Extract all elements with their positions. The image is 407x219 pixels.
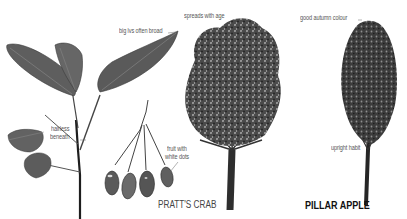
annotation-hairless-beneath-line1: hairless	[51, 125, 69, 133]
botanical-illustration: big lvs often broad spreads with age hai…	[0, 0, 407, 219]
annotation-spreads-with-age: spreads with age	[184, 12, 224, 20]
pratts-crab-crown	[185, 18, 281, 146]
fruit-2	[120, 172, 137, 200]
leaf-small-1	[8, 129, 43, 152]
fruit-3	[140, 171, 155, 197]
pratts-crab-tree	[185, 18, 281, 210]
annotation-upright-habit: upright habit	[331, 144, 360, 152]
annotation-fruit-white-dots-line2: white dots	[165, 153, 189, 161]
annotation-fruit-white-dots-line1: fruit with	[167, 145, 187, 153]
fruit-1	[105, 171, 119, 195]
pillar-apple-crown	[341, 21, 397, 145]
annotation-hairless-beneath-line2: beneath	[50, 133, 69, 141]
illustration-artwork	[0, 0, 407, 219]
leaf-broad	[98, 31, 178, 92]
species-title-pratts-crab: PRATT'S CRAB	[158, 199, 216, 210]
pillar-apple-tree	[341, 21, 397, 205]
annotation-good-autumn-colour: good autumn colour	[300, 14, 347, 22]
species-title-pillar-apple: PILLAR APPLE	[305, 199, 370, 211]
annotation-big-leaves: big lvs often broad	[119, 27, 163, 35]
fruit-cluster	[105, 100, 175, 200]
leaf-small-2	[24, 153, 51, 178]
